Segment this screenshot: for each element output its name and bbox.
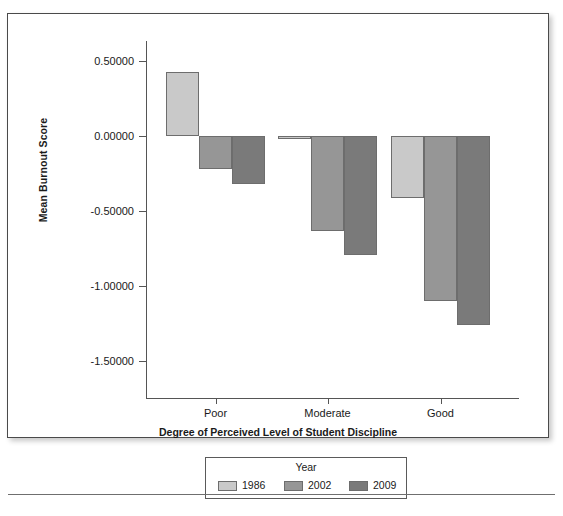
- y-tick: [139, 136, 147, 137]
- x-tick-label-moderate: Moderate: [268, 407, 388, 419]
- y-tick-label: 0.00000: [16, 130, 134, 142]
- y-tick: [139, 286, 147, 287]
- bar-moderate-1986: [278, 136, 311, 139]
- legend-swatch-1986: [218, 481, 237, 491]
- bar-moderate-2002: [311, 136, 344, 231]
- bar-poor-2009: [232, 136, 265, 184]
- bar-good-1986: [391, 136, 424, 198]
- x-tick: [441, 398, 442, 404]
- chart-plot-area: Mean Burnout Score 0.500000.00000-0.5000…: [8, 14, 548, 437]
- y-tick: [139, 361, 147, 362]
- y-tick: [139, 211, 147, 212]
- y-tick-label: -0.50000: [16, 205, 134, 217]
- legend-swatch-2009: [349, 481, 368, 491]
- x-tick: [328, 398, 329, 404]
- y-tick-label: 0.50000: [16, 55, 134, 67]
- x-tick-label-poor: Poor: [156, 407, 276, 419]
- x-tick-label-good: Good: [381, 407, 501, 419]
- y-axis-title: Mean Burnout Score: [37, 80, 49, 260]
- bar-poor-1986: [166, 72, 199, 137]
- figure-frame: Mean Burnout Score 0.500000.00000-0.5000…: [7, 13, 549, 438]
- figure-page: Mean Burnout Score 0.500000.00000-0.5000…: [0, 0, 563, 516]
- page-separator-rule: [8, 494, 555, 495]
- x-tick: [216, 398, 217, 404]
- legend: Year 198620022009: [205, 457, 407, 499]
- legend-swatch-2002: [284, 481, 303, 491]
- y-axis-line: [146, 41, 147, 398]
- legend-label-2009: 2009: [373, 479, 396, 491]
- legend-label-2002: 2002: [308, 479, 331, 491]
- legend-label-1986: 1986: [242, 479, 265, 491]
- y-tick: [139, 61, 147, 62]
- y-tick-label: -1.00000: [16, 280, 134, 292]
- bar-moderate-2009: [344, 136, 377, 255]
- legend-title: Year: [206, 461, 406, 473]
- bar-good-2002: [424, 136, 457, 301]
- legend-items: 198620022009: [206, 479, 406, 495]
- y-tick-label: -1.50000: [16, 355, 134, 367]
- x-axis-line: [146, 398, 519, 399]
- bar-poor-2002: [199, 136, 232, 169]
- x-axis-title: Degree of Perceived Level of Student Dis…: [8, 426, 548, 438]
- bar-good-2009: [457, 136, 490, 325]
